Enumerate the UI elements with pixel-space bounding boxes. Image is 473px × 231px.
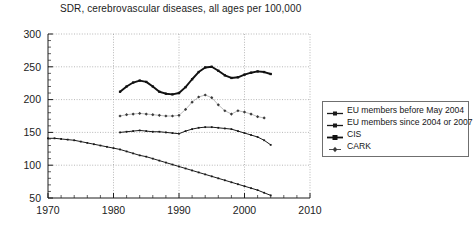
series-cark — [118, 93, 265, 119]
svg-text:1990: 1990 — [167, 204, 191, 216]
svg-text:50: 50 — [29, 192, 41, 204]
legend-item-cis: CIS — [326, 129, 465, 140]
legend-item-cark: CARK — [326, 141, 465, 152]
legend-item-eu-before-2004: EU members before May 2004 — [326, 105, 465, 116]
legend-item-label: EU members since 2004 or 2007 — [347, 117, 473, 128]
y-axis-tick-labels: 50100150200250300 — [23, 28, 41, 204]
svg-text:1980: 1980 — [102, 204, 126, 216]
line-square-marker-icon — [326, 105, 344, 116]
series-eu-members-since-2004-or-2007 — [119, 126, 271, 146]
svg-text:200: 200 — [23, 93, 41, 105]
data-series-layer — [47, 66, 272, 197]
svg-text:2010: 2010 — [298, 204, 322, 216]
legend-item-label: EU members before May 2004 — [347, 105, 464, 116]
svg-text:100: 100 — [23, 159, 41, 171]
svg-text:150: 150 — [23, 126, 41, 138]
svg-text:2000: 2000 — [233, 204, 257, 216]
legend-item-label: CIS — [347, 129, 361, 140]
svg-text:300: 300 — [23, 28, 41, 40]
svg-text:1970: 1970 — [36, 204, 60, 216]
line-square-marker-icon — [326, 129, 344, 140]
line-square-marker-icon — [326, 117, 344, 128]
series-cis — [119, 66, 272, 96]
x-axis-tick-labels: 19701980199020002010 — [36, 204, 322, 216]
line-diamond-marker-icon — [326, 141, 344, 152]
svg-text:250: 250 — [23, 61, 41, 73]
legend-item-eu-since-2004: EU members since 2004 or 2007 — [326, 117, 465, 128]
chart-legend: EU members before May 2004 EU members si… — [322, 101, 469, 157]
series-eu-members-before-may-2004 — [47, 137, 271, 196]
legend-item-label: CARK — [347, 141, 371, 152]
